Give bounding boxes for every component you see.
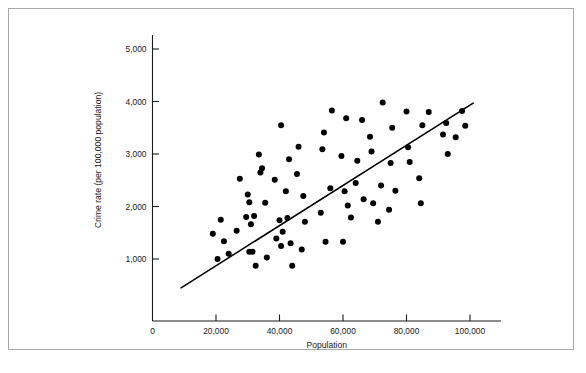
data-point (278, 243, 284, 249)
data-point (210, 231, 216, 237)
data-point (264, 254, 270, 260)
data-point (294, 171, 300, 177)
data-point (392, 188, 398, 194)
data-point (389, 125, 395, 131)
data-point (407, 159, 413, 165)
data-point (234, 228, 240, 234)
y-axis-tick-labels: 1,0002,0003,0004,0005,000 (126, 44, 147, 264)
x-axis-tick-label: 80,000 (394, 326, 420, 336)
data-point (367, 134, 373, 140)
y-axis-tick-label: 4,000 (126, 97, 147, 107)
data-point (388, 160, 394, 166)
data-point (248, 221, 254, 227)
data-point (286, 156, 292, 162)
data-point (361, 196, 367, 202)
scatter-plot: 020,00040,00060,00080,000100,000 1,0002,… (9, 9, 575, 351)
data-point (262, 200, 268, 206)
data-point (246, 199, 252, 205)
data-points-group (210, 100, 468, 269)
x-axis-tick-label: 0 (150, 326, 155, 336)
data-point (462, 123, 468, 129)
data-point (280, 229, 286, 235)
data-point (342, 188, 348, 194)
data-point (426, 109, 432, 115)
data-point (256, 152, 262, 158)
data-point (340, 239, 346, 245)
data-point (302, 219, 308, 225)
data-point (445, 151, 451, 157)
data-point (378, 183, 384, 189)
y-axis-title: Crime rate (per 100,000 population) (93, 92, 103, 228)
x-axis-tick-label: 20,000 (203, 326, 229, 336)
figure-frame: 020,00040,00060,00080,000100,000 1,0002,… (8, 8, 574, 350)
data-point (354, 158, 360, 164)
data-point (259, 165, 265, 171)
data-point (289, 263, 295, 269)
data-point (243, 214, 249, 220)
data-point (419, 122, 425, 128)
data-point (218, 217, 224, 223)
data-point (245, 191, 251, 197)
data-point (370, 200, 376, 206)
y-axis-tick-label: 2,000 (126, 202, 147, 212)
data-point (338, 153, 344, 159)
data-point (277, 217, 283, 223)
data-point (296, 144, 302, 150)
data-point (327, 185, 333, 191)
data-point (359, 117, 365, 123)
x-axis-tick-label: 60,000 (330, 326, 356, 336)
y-axis-tick-label: 3,000 (126, 149, 147, 159)
data-point (375, 219, 381, 225)
data-point (345, 202, 351, 208)
axes-group (153, 35, 502, 321)
data-point (221, 238, 227, 244)
data-point (278, 122, 284, 128)
y-axis-tick-label: 1,000 (126, 254, 147, 264)
y-axis-tick-label: 5,000 (126, 44, 147, 54)
data-point (272, 177, 278, 183)
data-point (380, 100, 386, 106)
data-point (386, 207, 392, 213)
data-point (283, 188, 289, 194)
data-point (343, 115, 349, 121)
x-axis-tick-labels: 020,00040,00060,00080,000100,000 (150, 326, 485, 336)
data-point (215, 256, 221, 262)
data-point (369, 148, 375, 154)
data-point (329, 107, 335, 113)
data-point (348, 215, 354, 221)
data-point (299, 247, 305, 253)
data-point (319, 146, 325, 152)
x-axis-title: Population (306, 340, 347, 350)
data-point (288, 240, 294, 246)
data-point (253, 263, 259, 269)
x-axis-tick-label: 100,000 (455, 326, 486, 336)
data-point (404, 108, 410, 114)
data-point (416, 175, 422, 181)
data-point (353, 180, 359, 186)
axis-ticks-group (153, 49, 471, 321)
data-point (250, 249, 256, 255)
data-point (440, 132, 446, 138)
data-point (273, 236, 279, 242)
data-point (237, 176, 243, 182)
trend-line (181, 103, 473, 288)
regression-line (181, 103, 473, 288)
data-point (321, 129, 327, 135)
data-point (300, 193, 306, 199)
data-point (453, 134, 459, 140)
data-point (418, 200, 424, 206)
data-point (251, 213, 257, 219)
data-point (323, 239, 329, 245)
figure-caption-strip (8, 356, 574, 373)
x-axis-tick-label: 40,000 (267, 326, 293, 336)
data-point (318, 210, 324, 216)
